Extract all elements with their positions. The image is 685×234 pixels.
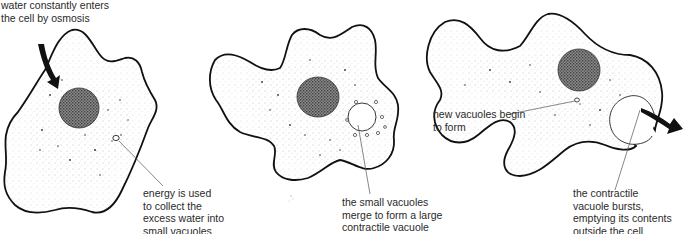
merge-label: the small vacuoles merge to form a large… [342, 196, 442, 234]
cell-2 [210, 25, 398, 194]
cell-3-new-vacuole [575, 98, 580, 102]
new-vacuoles-label: new vacuoles begin to form [433, 108, 525, 133]
cell-1-small-vacuole [113, 135, 119, 140]
cell-3 [427, 14, 683, 190]
burst-label: the contractile vacuole bursts, emptying… [573, 187, 672, 234]
energy-label: energy is used to collect the excess wat… [143, 187, 224, 234]
cell-1-nucleus [59, 88, 99, 128]
cell-3-nucleus [558, 49, 600, 91]
cell-3-bursting-vacuole [610, 96, 655, 145]
cell-2-large-vacuole [348, 103, 376, 131]
diagram-canvas: water constantly enters the cell by osmo… [0, 0, 685, 234]
osmosis-label: water constantly enters the cell by osmo… [1, 0, 109, 24]
cell-1 [4, 30, 163, 213]
cell-2-nucleus [297, 77, 339, 117]
